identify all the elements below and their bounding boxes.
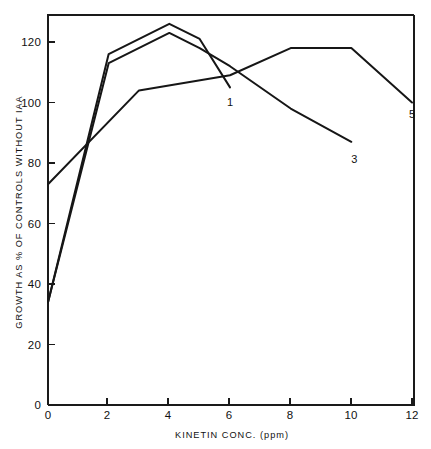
y-ticklabel-80: 80: [28, 157, 41, 169]
y-ticklabel-120: 120: [21, 36, 41, 48]
x-axis-title: KINETIN CONC. (ppm): [175, 430, 289, 440]
series-label-1: 1: [227, 96, 233, 108]
x-axis-tick-labels: 0 2 4 6 8 10 12: [45, 409, 419, 421]
series-line-1: [48, 24, 230, 302]
x-ticklabel-6: 6: [226, 409, 233, 421]
y-ticklabel-100: 100: [21, 97, 41, 109]
y-ticklabel-20: 20: [28, 339, 41, 351]
x-ticklabel-0: 0: [45, 409, 52, 421]
growth-vs-kinetin-line-chart: 0 20 40 60 80 100 120 0 2 4 6 8 10 12: [0, 0, 431, 449]
x-ticklabel-2: 2: [104, 409, 111, 421]
y-ticklabel-0: 0: [34, 399, 41, 411]
y-ticklabel-60: 60: [28, 218, 41, 230]
y-axis-title: GROWTH AS % OF CONTROLS WITHOUT IAA: [14, 95, 24, 328]
y-ticklabel-40: 40: [28, 278, 41, 290]
x-ticklabel-4: 4: [165, 409, 172, 421]
series-label-3: 3: [351, 153, 357, 165]
y-axis-tick-labels: 0 20 40 60 80 100 120: [21, 36, 41, 411]
x-ticklabel-10: 10: [344, 409, 357, 421]
series-label-layer: 135: [227, 96, 415, 165]
chart-figure: 0 20 40 60 80 100 120 0 2 4 6 8 10 12: [0, 0, 431, 449]
x-ticklabel-8: 8: [287, 409, 294, 421]
series-label-5: 5: [409, 108, 415, 120]
y-axis-ticks: [48, 42, 55, 405]
x-axis-ticks: [48, 398, 412, 405]
series-line-3: [48, 33, 351, 302]
x-ticklabel-12: 12: [405, 409, 418, 421]
